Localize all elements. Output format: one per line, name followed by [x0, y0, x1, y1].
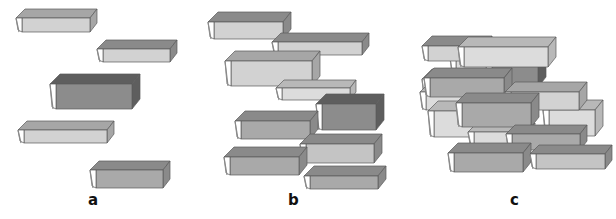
book-top-face	[530, 145, 612, 154]
book	[96, 39, 180, 63]
book-top-face	[304, 166, 386, 176]
book-front-face	[454, 153, 523, 172]
book-top-face	[18, 121, 114, 130]
book-top-face	[300, 134, 382, 144]
book-top-face	[208, 12, 291, 22]
book-top-face	[424, 68, 512, 78]
book	[299, 133, 385, 164]
book-top-face	[506, 125, 587, 134]
book	[15, 8, 100, 33]
book-front-face	[230, 157, 299, 175]
book-front-face	[306, 144, 374, 163]
book-top-face	[235, 111, 318, 121]
book-top-face	[505, 82, 587, 92]
book	[303, 165, 389, 190]
book-front-face	[22, 18, 90, 32]
book	[315, 93, 387, 131]
book	[49, 73, 143, 110]
book-front-face	[310, 176, 378, 189]
book-front-face	[103, 49, 170, 62]
book	[17, 120, 117, 144]
book-top-face	[448, 143, 531, 153]
book-top-face	[97, 40, 177, 49]
book-front-face	[56, 84, 132, 109]
book-front-face	[24, 130, 107, 143]
book	[89, 160, 173, 189]
book-front-face	[96, 170, 163, 188]
book-top-face	[224, 147, 307, 157]
book	[455, 92, 542, 128]
book-top-face	[16, 9, 97, 18]
book-top-face	[456, 93, 539, 103]
book-top-face	[316, 94, 384, 104]
book	[223, 146, 310, 176]
book-top-face	[458, 37, 556, 47]
book	[529, 144, 615, 170]
book-top-face	[225, 51, 320, 61]
book-front-face	[464, 47, 548, 67]
book-front-face	[322, 104, 376, 130]
book-top-face	[90, 161, 170, 170]
book-top-face	[276, 80, 356, 88]
panel-c-label: c	[510, 193, 519, 208]
book-top-face	[50, 74, 140, 84]
book	[457, 36, 559, 68]
book	[447, 142, 534, 173]
book-top-face	[272, 33, 369, 42]
book-front-face	[536, 154, 605, 169]
